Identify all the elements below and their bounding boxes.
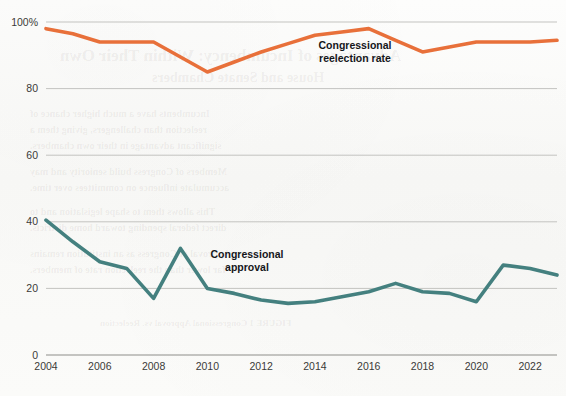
y-tick-label: 100% bbox=[11, 16, 38, 28]
line-chart: 020406080100% 20042006200820102012201420… bbox=[0, 0, 566, 396]
x-tick-label: 2022 bbox=[518, 360, 542, 372]
y-tick-label: 20 bbox=[26, 282, 38, 294]
series-annotation-line-1: Congressional bbox=[319, 39, 392, 51]
x-axis-tick-labels: 2004200620082010201220142016201820202022 bbox=[34, 360, 542, 372]
series-line bbox=[46, 29, 557, 72]
x-tick-label: 2004 bbox=[34, 360, 58, 372]
y-gridlines bbox=[46, 22, 557, 355]
series-annotation: Congressionalreelection rate bbox=[319, 39, 392, 64]
x-tick-label: 2016 bbox=[357, 360, 381, 372]
x-tick-label: 2008 bbox=[142, 360, 166, 372]
x-tick-label: 2006 bbox=[88, 360, 112, 372]
series-annotation-line-1: Congressional bbox=[211, 248, 284, 260]
series-annotations: Congressionalreelection rateCongressiona… bbox=[211, 39, 392, 273]
x-tick-label: 2020 bbox=[465, 360, 489, 372]
y-axis-tick-labels: 020406080100% bbox=[11, 16, 38, 361]
series-annotation: Congressionalapproval bbox=[211, 248, 284, 273]
y-tick-label: 80 bbox=[26, 82, 38, 94]
x-tick-label: 2018 bbox=[411, 360, 435, 372]
series-lines bbox=[46, 29, 557, 304]
series-annotation-line-2: approval bbox=[225, 261, 269, 273]
y-tick-label: 0 bbox=[32, 349, 38, 361]
chart-canvas: 020406080100% 20042006200820102012201420… bbox=[0, 0, 566, 396]
x-tick-label: 2010 bbox=[196, 360, 220, 372]
y-tick-label: 40 bbox=[26, 215, 38, 227]
x-tick-label: 2014 bbox=[303, 360, 327, 372]
series-annotation-line-2: reelection rate bbox=[319, 52, 391, 64]
series-line bbox=[46, 220, 557, 303]
y-tick-label: 60 bbox=[26, 149, 38, 161]
x-tick-label: 2012 bbox=[249, 360, 273, 372]
